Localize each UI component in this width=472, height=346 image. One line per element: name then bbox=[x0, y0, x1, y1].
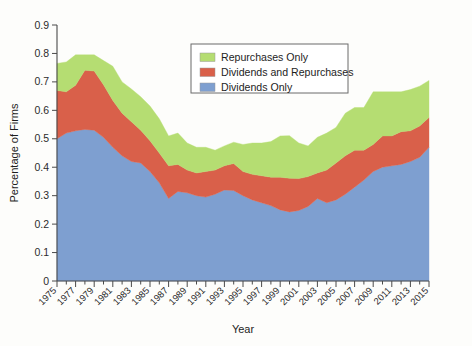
x-tick-label: 1979 bbox=[73, 285, 96, 308]
y-tick-label: 0.1 bbox=[34, 246, 49, 258]
x-tick-label: 1987 bbox=[147, 285, 170, 308]
stacked-area-chart: 00.10.20.30.40.50.60.70.80.9197519771979… bbox=[0, 0, 472, 346]
x-tick-label: 1989 bbox=[166, 285, 189, 308]
x-tick-label: 1993 bbox=[203, 285, 226, 308]
x-tick-label: 2001 bbox=[278, 285, 301, 308]
legend-label: Dividends Only bbox=[221, 81, 293, 93]
y-axis-title: Percentage of Firms bbox=[8, 103, 20, 203]
legend-swatch bbox=[200, 68, 215, 77]
x-tick-label: 1981 bbox=[92, 285, 115, 308]
y-tick-label: 0 bbox=[43, 275, 49, 287]
y-tick-label: 0.8 bbox=[34, 47, 49, 59]
x-tick-label: 2013 bbox=[389, 285, 412, 308]
x-axis-title: Year bbox=[232, 323, 255, 335]
y-tick-label: 0.9 bbox=[34, 19, 49, 31]
x-tick-label: 1997 bbox=[240, 285, 263, 308]
x-tick-label: 1991 bbox=[185, 285, 208, 308]
legend-label: Dividends and Repurchases bbox=[221, 66, 354, 78]
x-tick-label: 2007 bbox=[333, 285, 356, 308]
x-tick-label: 1999 bbox=[259, 285, 282, 308]
y-tick-label: 0.6 bbox=[34, 104, 49, 116]
y-tick-label: 0.5 bbox=[34, 132, 49, 144]
x-tick-label: 1977 bbox=[54, 285, 77, 308]
x-tick-label: 2003 bbox=[296, 285, 319, 308]
legend-swatch bbox=[200, 83, 215, 92]
y-tick-label: 0.4 bbox=[34, 161, 49, 173]
x-tick-label: 2015 bbox=[408, 285, 431, 308]
y-tick-label: 0.2 bbox=[34, 218, 49, 230]
x-tick-label: 2005 bbox=[315, 285, 338, 308]
x-tick-label: 1995 bbox=[222, 285, 245, 308]
legend-swatch bbox=[200, 53, 215, 62]
legend: Repurchases OnlyDividends and Repurchase… bbox=[191, 44, 354, 93]
x-tick-label: 2009 bbox=[352, 285, 375, 308]
chart-root: 00.10.20.30.40.50.60.70.80.9197519771979… bbox=[0, 0, 472, 346]
x-tick-label: 1975 bbox=[36, 285, 59, 308]
x-tick-label: 2011 bbox=[371, 285, 393, 307]
x-tick-label: 1985 bbox=[129, 285, 152, 308]
x-tick-label: 1983 bbox=[110, 285, 133, 308]
legend-label: Repurchases Only bbox=[221, 51, 309, 63]
y-tick-label: 0.3 bbox=[34, 189, 49, 201]
y-tick-label: 0.7 bbox=[34, 75, 49, 87]
